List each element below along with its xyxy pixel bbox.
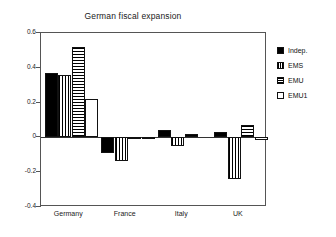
y-axis-tick-mark <box>36 206 41 207</box>
y-axis-tick-label: -0.4 <box>25 202 36 209</box>
bar-uk-ems <box>228 137 241 179</box>
legend-item-emu1[interactable]: EMU1 <box>277 88 335 103</box>
x-axis-tick-label: France <box>97 210 154 217</box>
bar-germany-ems <box>58 75 71 138</box>
legend-item-label: EMU1 <box>288 92 307 99</box>
bar-france-ems <box>115 137 128 160</box>
y-axis-tick-mark <box>36 136 41 137</box>
bar-italy-emu <box>185 134 198 137</box>
chart-legend: Indep.EMSEMUEMU1 <box>277 43 335 103</box>
legend-swatch-icon <box>277 92 284 99</box>
legend-swatch-icon <box>277 47 284 54</box>
x-axis-tick-label: Italy <box>153 210 210 217</box>
legend-item-label: EMU <box>288 77 304 84</box>
bar-germany-indep <box>45 73 58 137</box>
legend-item-ems[interactable]: EMS <box>277 58 335 73</box>
bar-france-emu <box>128 137 141 139</box>
bar-italy-ems <box>171 137 184 146</box>
chart-title: German fiscal expansion <box>0 11 266 21</box>
bar-italy-indep <box>158 130 171 138</box>
bar-uk-indep <box>214 132 227 137</box>
legend-swatch-icon <box>277 77 284 84</box>
y-axis-tick-mark <box>36 67 41 68</box>
bar-france-emu1 <box>142 137 155 139</box>
legend-item-label: Indep. <box>288 47 307 54</box>
legend-item-indep[interactable]: Indep. <box>277 43 335 58</box>
legend-item-label: EMS <box>288 62 303 69</box>
bar-uk-emu <box>241 125 254 137</box>
x-axis-tick-label: Germany <box>40 210 97 217</box>
x-axis-tick-label: UK <box>210 210 267 217</box>
y-axis-tick-label: 0.6 <box>27 28 36 35</box>
y-axis-tick-mark <box>36 171 41 172</box>
bar-germany-emu <box>72 47 85 137</box>
y-axis-tick-label: 0.4 <box>27 63 36 70</box>
legend-item-emu[interactable]: EMU <box>277 73 335 88</box>
plot-area <box>40 32 266 206</box>
y-axis-tick-mark <box>36 32 41 33</box>
bar-uk-emu1 <box>255 137 268 140</box>
legend-swatch-icon <box>277 62 284 69</box>
y-axis-tick-mark <box>36 102 41 103</box>
bar-germany-emu1 <box>85 99 98 137</box>
y-axis-tick-label: -0.2 <box>25 167 36 174</box>
bar-france-indep <box>101 137 114 153</box>
y-axis-tick-label: 0.2 <box>27 98 36 105</box>
bar-chart-figure: German fiscal expansion Indep.EMSEMUEMU1… <box>0 0 336 237</box>
